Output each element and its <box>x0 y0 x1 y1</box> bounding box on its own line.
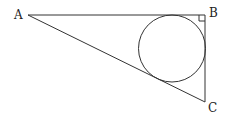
right-angle-marker <box>199 15 205 21</box>
triangle-diagram: A B C <box>0 0 225 115</box>
inscribed-circle <box>139 15 206 82</box>
label-b: B <box>209 6 218 20</box>
label-a: A <box>13 8 23 22</box>
label-c: C <box>208 101 217 115</box>
side-ac <box>28 15 205 102</box>
